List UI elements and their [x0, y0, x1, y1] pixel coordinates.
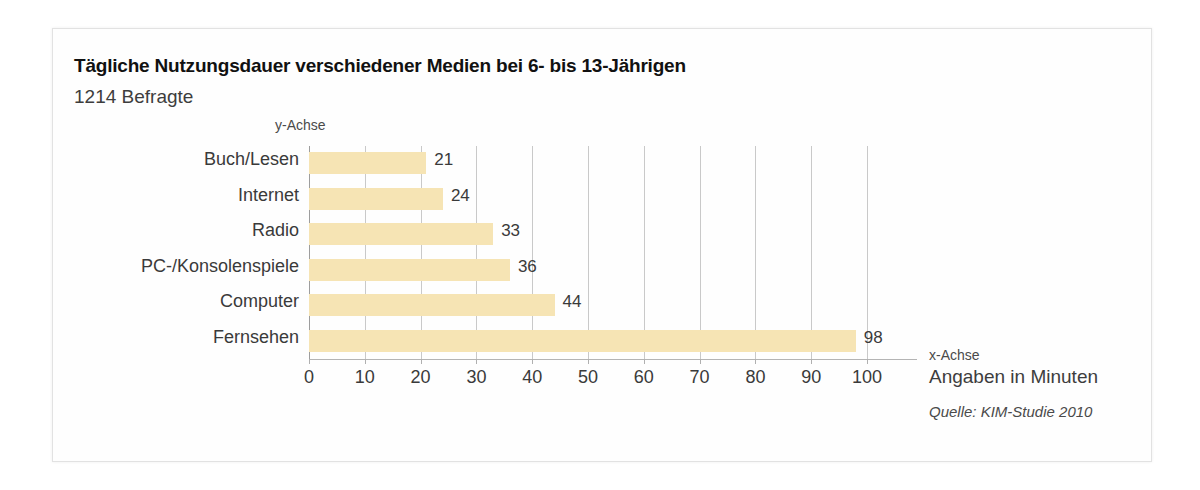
x-axis-tick	[644, 359, 645, 364]
category-label: Fernsehen	[213, 327, 299, 348]
x-axis-tick	[755, 359, 756, 364]
x-axis-tick-label: 20	[411, 367, 431, 388]
category-label: PC-/Konsolenspiele	[141, 256, 299, 277]
x-axis-tick	[309, 359, 310, 364]
bar-row: Fernsehen98	[309, 324, 867, 360]
x-axis-tick-label: 30	[466, 367, 486, 388]
x-axis-tick-label: 80	[745, 367, 765, 388]
y-axis-title: y-Achse	[275, 117, 326, 133]
x-axis-tick	[421, 359, 422, 364]
bar-value-label: 36	[518, 257, 537, 277]
bar	[309, 188, 443, 210]
x-axis-tick	[365, 359, 366, 364]
x-axis-tick	[476, 359, 477, 364]
chart-title: Tägliche Nutzungsdauer verschiedener Med…	[74, 55, 686, 77]
bar-row: Buch/Lesen21	[309, 146, 867, 182]
x-axis-title: x-Achse	[929, 347, 980, 363]
plot-area: Buch/Lesen21Internet24Radio33PC-/Konsole…	[309, 146, 867, 359]
x-axis-tick-label: 70	[690, 367, 710, 388]
bar	[309, 330, 856, 352]
bar	[309, 152, 426, 174]
chart-figure-frame: Tägliche Nutzungsdauer verschiedener Med…	[52, 28, 1152, 462]
x-axis-tick-label: 100	[852, 367, 882, 388]
x-axis-tick-label: 10	[355, 367, 375, 388]
units-note: Angaben in Minuten	[929, 366, 1098, 388]
bar-value-label: 24	[451, 186, 470, 206]
x-axis-line	[309, 359, 917, 360]
source-note: Quelle: KIM-Studie 2010	[929, 403, 1092, 420]
x-axis-tick-label: 90	[801, 367, 821, 388]
x-axis-tick	[532, 359, 533, 364]
category-label: Radio	[252, 220, 299, 241]
x-axis-tick-label: 50	[578, 367, 598, 388]
bar-value-label: 21	[434, 150, 453, 170]
bar	[309, 294, 555, 316]
bar-value-label: 98	[864, 328, 883, 348]
bar	[309, 259, 510, 281]
x-axis-tick	[867, 359, 868, 364]
bar-row: Internet24	[309, 182, 867, 218]
bar	[309, 223, 493, 245]
bar-row: Computer44	[309, 288, 867, 324]
category-label: Internet	[238, 185, 299, 206]
x-axis-tick-label: 40	[522, 367, 542, 388]
bar-row: Radio33	[309, 217, 867, 253]
category-label: Computer	[220, 291, 299, 312]
x-axis-tick	[588, 359, 589, 364]
bar-value-label: 33	[501, 221, 520, 241]
chart-subtitle: 1214 Befragte	[74, 86, 193, 108]
bar-value-label: 44	[563, 292, 582, 312]
bar-row: PC-/Konsolenspiele36	[309, 253, 867, 289]
x-axis-tick	[700, 359, 701, 364]
x-axis-tick-label: 0	[304, 367, 314, 388]
category-label: Buch/Lesen	[204, 149, 299, 170]
x-axis-tick-label: 60	[634, 367, 654, 388]
x-axis-tick	[811, 359, 812, 364]
